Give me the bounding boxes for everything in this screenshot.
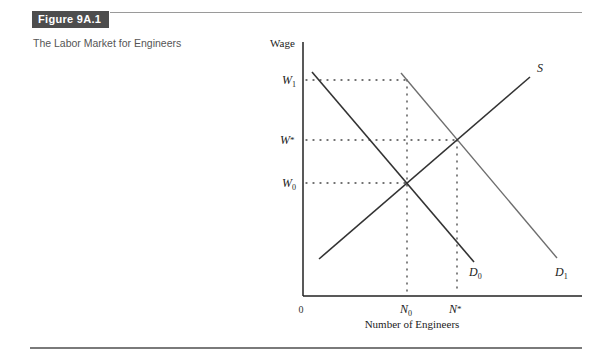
nstar-label: N*: [448, 302, 462, 316]
origin-label: 0: [299, 304, 304, 315]
demand-curve-d1: [401, 73, 557, 258]
w1-label: W1: [282, 73, 296, 89]
x-tick-labels: N0 N*: [399, 302, 462, 318]
d0-label: D0: [468, 265, 482, 281]
y-tick-labels: W1 W* W0: [280, 73, 296, 192]
n0-label: N0: [399, 302, 412, 318]
bottom-rule: [30, 347, 582, 349]
labor-market-chart: Wage Number of Engineers 0 W1 W* W0 N0 N…: [0, 0, 612, 358]
wstar-label: W*: [280, 133, 295, 147]
demand-curve-d0: [312, 72, 474, 262]
s-label: S: [537, 61, 543, 75]
supply-curve-s: [319, 77, 530, 259]
d1-label: D1: [554, 265, 568, 281]
w0-label: W0: [282, 176, 296, 192]
y-axis-title: Wage: [270, 37, 295, 49]
x-axis-title: Number of Engineers: [365, 318, 460, 330]
